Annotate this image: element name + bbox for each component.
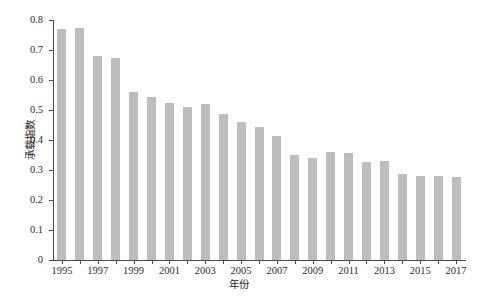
x-tick-label: 1995 (51, 266, 72, 277)
y-tick: 0.8 (49, 20, 53, 21)
y-tick: 0.2 (49, 200, 53, 201)
x-tick (152, 260, 153, 264)
bar-chart-figure: 承载指数 00.10.20.30.40.50.60.70.8 199519971… (0, 0, 477, 304)
x-tick (277, 260, 278, 264)
bar (93, 56, 102, 260)
bar (326, 152, 335, 260)
x-tick (349, 260, 350, 264)
x-tick-label: 2015 (410, 266, 431, 277)
bar (183, 107, 192, 260)
x-tick (366, 260, 367, 264)
x-tick-label: 2007 (266, 266, 287, 277)
y-tick: 0.5 (49, 110, 53, 111)
y-tick-label: 0.5 (30, 105, 43, 116)
x-tick (187, 260, 188, 264)
x-tick (205, 260, 206, 264)
bar (380, 161, 389, 260)
x-tick-label: 2017 (446, 266, 467, 277)
x-tick (331, 260, 332, 264)
x-tick (98, 260, 99, 264)
bar (165, 103, 174, 260)
bar (111, 58, 120, 261)
x-tick (134, 260, 135, 264)
x-tick-label: 2013 (374, 266, 395, 277)
bar (255, 127, 264, 260)
y-tick-label: 0 (38, 255, 43, 266)
bar (219, 114, 228, 260)
x-tick-label: 2001 (159, 266, 180, 277)
bar (272, 136, 281, 260)
y-tick-label: 0.8 (30, 15, 43, 26)
y-tick: 0.4 (49, 140, 53, 141)
x-tick (402, 260, 403, 264)
x-tick (169, 260, 170, 264)
plot-area: 00.10.20.30.40.50.60.70.8 19951997199920… (53, 20, 465, 260)
bar (75, 28, 84, 261)
x-tick (295, 260, 296, 264)
bar (57, 29, 66, 260)
bar (434, 176, 443, 260)
x-tick-label: 2011 (338, 266, 359, 277)
bar (416, 176, 425, 260)
bar (237, 122, 246, 260)
bar (398, 174, 407, 260)
y-tick-label: 0.2 (30, 195, 43, 206)
x-tick-label: 1999 (123, 266, 144, 277)
x-tick (80, 260, 81, 264)
bar (362, 162, 371, 260)
y-tick: 0.3 (49, 170, 53, 171)
x-tick (116, 260, 117, 264)
y-tick-label: 0.3 (30, 165, 43, 176)
x-tick (456, 260, 457, 264)
y-tick: 0.7 (49, 50, 53, 51)
bar (308, 158, 317, 260)
bar (290, 155, 299, 260)
x-tick-label: 1997 (87, 266, 108, 277)
y-tick: 0.1 (49, 230, 53, 231)
bar (147, 97, 156, 260)
x-tick (241, 260, 242, 264)
x-tick (259, 260, 260, 264)
y-axis-line (53, 20, 54, 261)
bar (344, 153, 353, 260)
bar (201, 104, 210, 260)
x-tick (62, 260, 63, 264)
x-tick (438, 260, 439, 264)
x-tick (313, 260, 314, 264)
x-tick-label: 2009 (302, 266, 323, 277)
x-tick-label: 2003 (195, 266, 216, 277)
x-tick (420, 260, 421, 264)
y-tick-label: 0.7 (30, 45, 43, 56)
y-tick-label: 0.6 (30, 75, 43, 86)
y-tick: 0.6 (49, 80, 53, 81)
y-tick-label: 0.1 (30, 225, 43, 236)
x-tick-label: 2005 (231, 266, 252, 277)
x-tick (223, 260, 224, 264)
bar (452, 177, 461, 260)
y-tick-label: 0.4 (30, 135, 43, 146)
bar (129, 92, 138, 260)
y-tick: 0 (49, 260, 53, 261)
x-tick (384, 260, 385, 264)
x-axis-title: 年份 (0, 276, 477, 291)
